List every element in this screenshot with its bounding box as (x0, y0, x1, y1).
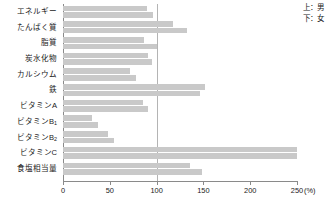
category-label: たんぱく質 (0, 20, 60, 36)
bar-male (63, 100, 143, 106)
bar-male (63, 21, 173, 27)
bar-male (63, 147, 297, 153)
category-label: 食塩相当量 (0, 161, 60, 177)
legend-entry-female: 下：女 (303, 14, 324, 25)
x-axis-tick (63, 181, 64, 185)
x-axis-tick (157, 181, 158, 185)
bar-male (63, 84, 205, 90)
bar-female (63, 169, 202, 175)
category-label: カルシウム (0, 67, 60, 83)
bar-group (63, 20, 297, 36)
x-axis-tick (203, 181, 204, 185)
legend-entry-male: 上：男 (303, 3, 324, 14)
bar-group (63, 67, 297, 83)
bar-male (63, 115, 92, 121)
bar-female (63, 106, 148, 112)
x-axis-tick-label: 150 (197, 186, 209, 195)
bar-group (63, 114, 297, 130)
bar-female (63, 138, 114, 144)
bar-male (63, 37, 144, 43)
x-axis-tick (250, 181, 251, 185)
bar-female (63, 12, 153, 18)
category-label: ビタミンA (0, 98, 60, 114)
category-label: 鉄 (0, 82, 60, 98)
bar-group (63, 83, 297, 99)
bar-male (63, 53, 148, 59)
x-axis-tick-label: 0 (61, 186, 65, 195)
bar-group (63, 145, 297, 161)
x-axis-tick (297, 181, 298, 185)
bar-male (63, 68, 130, 74)
x-axis-tick-label: 200 (244, 186, 256, 195)
bar-group (63, 161, 297, 177)
category-axis-labels: エネルギーたんぱく質脂質炭水化物カルシウム鉄ビタミンAビタミンB1ビタミンB2ビ… (0, 4, 60, 177)
category-label: ビタミンC (0, 145, 60, 161)
category-label-subscript: 2 (54, 136, 57, 142)
x-axis-line (63, 181, 297, 182)
category-label: ビタミンB1 (0, 114, 60, 130)
bar-male (63, 163, 190, 169)
x-axis-tick-label: 50 (106, 186, 114, 195)
bar-female (63, 75, 136, 81)
bar-female (63, 44, 157, 50)
category-label: ビタミンB2 (0, 130, 60, 146)
category-label-subscript: 1 (54, 120, 57, 126)
bar-group (63, 35, 297, 51)
plot-area (63, 4, 297, 181)
category-label: 脂質 (0, 35, 60, 51)
bar-group (63, 51, 297, 67)
bar-group (63, 130, 297, 146)
bar-female (63, 153, 297, 159)
category-label: 炭水化物 (0, 51, 60, 67)
category-label: エネルギー (0, 4, 60, 20)
x-axis-tick-label: 100 (150, 186, 162, 195)
chart-legend: 上：男 下：女 (303, 3, 324, 25)
x-axis-tick (110, 181, 111, 185)
bar-group (63, 4, 297, 20)
bar-female (63, 59, 152, 65)
nutrient-intake-bar-chart: 上：男 下：女 エネルギーたんぱく質脂質炭水化物カルシウム鉄ビタミンAビタミンB… (0, 0, 330, 217)
bar-male (63, 6, 147, 12)
x-axis-unit-label: (%) (304, 186, 316, 195)
bar-male (63, 131, 108, 137)
bar-female (63, 91, 200, 97)
x-axis-tick-label: 250 (291, 186, 303, 195)
bar-female (63, 122, 98, 128)
bar-female (63, 28, 187, 34)
bar-group (63, 98, 297, 114)
